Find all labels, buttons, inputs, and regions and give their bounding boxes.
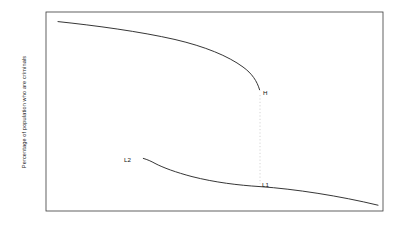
criminality-hysteresis-figure: Percentage of population who are crimina… bbox=[0, 0, 403, 230]
annotation-l1-label: L1 bbox=[262, 181, 269, 188]
annotation-l2-label: L2 bbox=[124, 156, 131, 163]
plot-area bbox=[0, 0, 403, 230]
annotation-h-label: H bbox=[263, 89, 267, 96]
